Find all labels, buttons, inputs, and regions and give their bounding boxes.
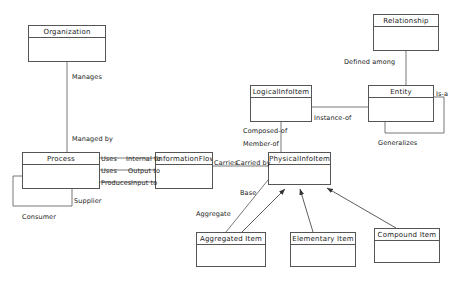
- class-body-physicalinfoitem: [269, 165, 330, 184]
- class-box-logicalinfoitem[interactable]: LogicalInfoItem: [250, 85, 312, 122]
- edge-label-uses-internal: Uses: [101, 155, 117, 163]
- class-box-organization[interactable]: Organization: [28, 25, 106, 62]
- class-body-relationship: [374, 27, 438, 50]
- edge-generalization-compound: [327, 188, 396, 228]
- edge-label-input-to: Input to: [131, 179, 157, 187]
- class-title-organization: Organization: [29, 26, 105, 38]
- edge-label-uses-output: Uses: [101, 167, 117, 175]
- edge-label-supplier: Supplier: [74, 197, 102, 205]
- class-body-compound-item: [375, 241, 439, 262]
- class-box-elementary-item[interactable]: Elementary Item: [290, 232, 356, 267]
- class-box-compound-item[interactable]: Compound Item: [374, 228, 440, 263]
- class-title-physicalinfoitem: PhysicalInfoItem: [269, 153, 330, 165]
- edge-label-generalizes: Generalizes: [378, 139, 417, 147]
- class-box-physicalinfoitem[interactable]: PhysicalInfoItem: [268, 152, 331, 185]
- edge-label-aggregate: Aggregate: [196, 210, 231, 218]
- edge-label-instance-of: Instance-of: [314, 114, 351, 122]
- edge-label-output-to: Output to: [128, 167, 160, 175]
- uml-diagram-canvas: Organization Process InformationFlow Log…: [0, 0, 461, 286]
- edge-label-member-of: Member-of: [243, 140, 279, 148]
- class-title-logicalinfoitem: LogicalInfoItem: [251, 86, 311, 98]
- edge-label-is-a: Is-a: [436, 90, 448, 98]
- class-body-entity: [369, 98, 433, 121]
- edge-label-carries: Carries: [214, 159, 238, 167]
- edge-label-base: Base: [240, 189, 256, 197]
- edge-label-carried-by: Carried by: [236, 159, 271, 167]
- class-body-organization: [29, 38, 105, 61]
- edge-physicalinfoitem-aggregate: [226, 180, 268, 232]
- class-title-informationflow: InformationFlow: [156, 153, 212, 165]
- edge-label-defined-among: Defined among: [344, 58, 395, 66]
- edge-label-internal-to: Internal to: [126, 155, 161, 163]
- class-title-aggregated-item: Aggregated Item: [197, 233, 265, 245]
- class-box-process[interactable]: Process: [22, 152, 100, 189]
- class-box-informationflow[interactable]: InformationFlow: [155, 152, 213, 189]
- class-body-elementary-item: [291, 245, 355, 266]
- edge-label-manages: Manages: [72, 73, 102, 81]
- class-body-aggregated-item: [197, 245, 265, 266]
- class-body-logicalinfoitem: [251, 98, 311, 121]
- edge-label-composed-of: Composed-of: [243, 127, 287, 135]
- class-box-aggregated-item[interactable]: Aggregated Item: [196, 232, 266, 267]
- class-body-process: [23, 165, 99, 188]
- edge-label-consumer: Consumer: [22, 213, 56, 221]
- edge-label-managed-by: Managed by: [72, 135, 113, 143]
- edge-label-produces: Produces: [101, 179, 131, 187]
- class-body-informationflow: [156, 165, 212, 188]
- class-title-elementary-item: Elementary Item: [291, 233, 355, 245]
- class-box-entity[interactable]: Entity: [368, 85, 434, 122]
- class-title-entity: Entity: [369, 86, 433, 98]
- class-title-compound-item: Compound Item: [375, 229, 439, 241]
- edge-generalization-elementary: [300, 189, 313, 232]
- class-box-relationship[interactable]: Relationship: [373, 14, 439, 51]
- class-title-process: Process: [23, 153, 99, 165]
- class-title-relationship: Relationship: [374, 15, 438, 27]
